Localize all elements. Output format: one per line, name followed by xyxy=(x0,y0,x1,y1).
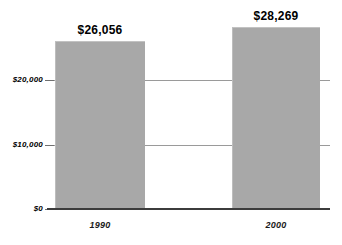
y-tick-label-20000: $20,000 xyxy=(13,76,43,84)
bar-1990[interactable] xyxy=(55,41,145,209)
value-label-2000: $28,269 xyxy=(232,10,320,23)
y-tick-label-10000: $10,000 xyxy=(13,141,43,149)
y-tick-mark-20000 xyxy=(45,80,54,81)
bar-2000[interactable] xyxy=(232,27,320,209)
y-tick-label-10000-wrap: $10,000 xyxy=(0,141,43,150)
value-label-1990: $26,056 xyxy=(55,24,145,37)
y-tick-mark-10000 xyxy=(45,145,54,146)
y-tick-label-20000-wrap: $20,000 xyxy=(0,76,43,85)
x-tick-label-2000: 2000 xyxy=(232,220,320,230)
x-tick-label-1990: 1990 xyxy=(55,220,145,230)
bar-chart: $20,000 $10,000 $0 1990 2000 $26,056 $28… xyxy=(0,0,342,245)
x-axis-baseline xyxy=(47,208,330,210)
y-tick-label-0-wrap: $0 xyxy=(0,205,43,214)
plot-area: $20,000 $10,000 $0 1990 2000 $26,056 $28… xyxy=(0,0,342,245)
y-tick-label-0: $0 xyxy=(34,205,43,213)
